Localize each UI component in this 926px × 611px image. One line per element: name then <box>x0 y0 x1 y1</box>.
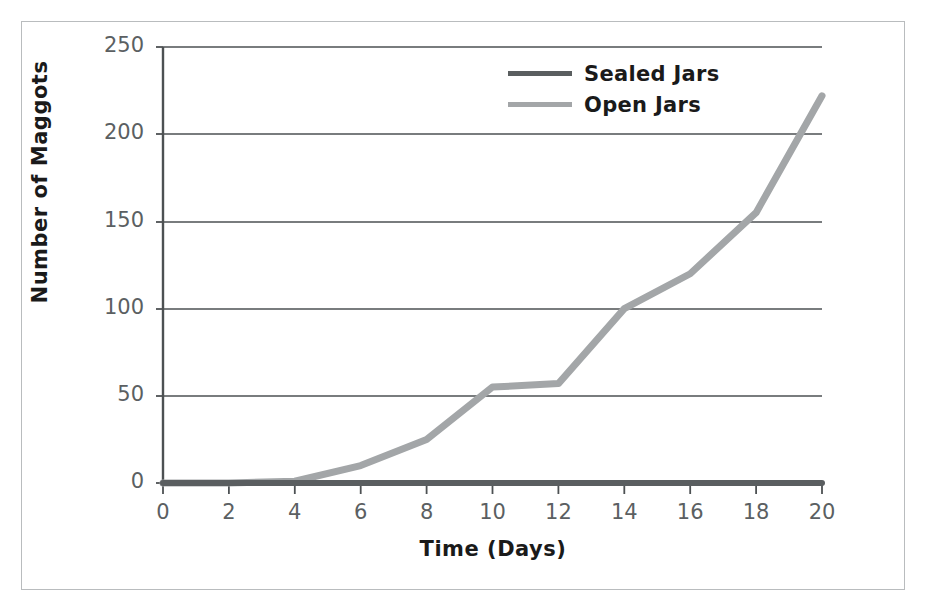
y-tick-label-250: 250 <box>88 33 144 57</box>
x-tick-label-10: 10 <box>463 500 523 524</box>
y-tick-label-50: 50 <box>88 382 144 406</box>
chart-legend: Sealed Jars Open Jars <box>508 58 778 120</box>
y-axis-title-wrap: Number of Maggots <box>28 32 52 332</box>
x-tick-label-12: 12 <box>528 500 588 524</box>
y-tick-label-100: 100 <box>88 295 144 319</box>
legend-label-open-jars: Open Jars <box>584 93 701 117</box>
x-tick-label-0: 0 <box>133 500 193 524</box>
legend-swatch-sealed-jars <box>508 71 572 76</box>
x-tick-label-4: 4 <box>265 500 325 524</box>
y-tick-label-0: 0 <box>88 469 144 493</box>
x-tick-label-8: 8 <box>397 500 457 524</box>
x-tick-label-18: 18 <box>726 500 786 524</box>
x-tick-label-6: 6 <box>331 500 391 524</box>
x-tick-label-14: 14 <box>594 500 654 524</box>
legend-label-sealed-jars: Sealed Jars <box>584 62 719 86</box>
legend-swatch-open-jars <box>508 102 572 107</box>
y-tick-label-150: 150 <box>88 208 144 232</box>
y-axis-title: Number of Maggots <box>28 61 52 304</box>
legend-item-sealed-jars: Sealed Jars <box>508 58 778 89</box>
x-tick-label-16: 16 <box>660 500 720 524</box>
x-tick-label-20: 20 <box>792 500 852 524</box>
legend-item-open-jars: Open Jars <box>508 89 778 120</box>
series-line-open-jars <box>163 96 822 483</box>
x-tick-label-2: 2 <box>199 500 259 524</box>
x-axis-title-wrap: Time (Days) <box>163 537 823 561</box>
y-tick-label-200: 200 <box>88 120 144 144</box>
x-axis-title: Time (Days) <box>420 537 567 561</box>
